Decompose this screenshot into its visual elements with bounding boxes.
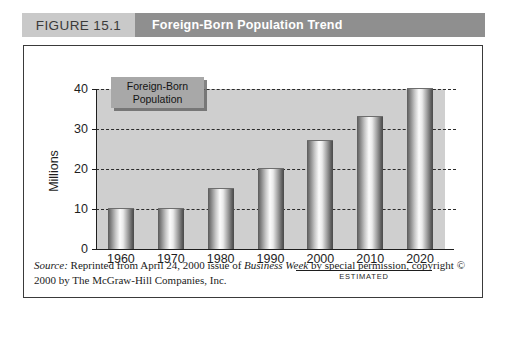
figure-title-label: Foreign-Born Population Trend bbox=[152, 18, 343, 32]
figure-frame: 010203040 Millions 196019701980199020002… bbox=[23, 45, 483, 298]
y-tick-label-0: 0 bbox=[62, 242, 88, 256]
y-tick-label-10: 10 bbox=[62, 202, 88, 216]
bar-1980 bbox=[208, 188, 234, 249]
bar-2020 bbox=[407, 88, 433, 249]
source-label: Source: bbox=[34, 259, 68, 271]
figure-number-label: FIGURE 15.1 bbox=[36, 18, 121, 33]
y-tick-mark-0 bbox=[92, 249, 97, 250]
source-publication: Business Week bbox=[244, 259, 308, 271]
y-tick-mark-40 bbox=[92, 89, 97, 90]
bar-2000 bbox=[307, 140, 333, 249]
y-tick-mark-30 bbox=[92, 129, 97, 130]
legend-line-2: Population bbox=[133, 93, 183, 106]
y-axis-title: Millions bbox=[47, 131, 61, 211]
figure-number-box: FIGURE 15.1 bbox=[22, 13, 135, 37]
bar-1970 bbox=[158, 208, 184, 249]
figure-header: FIGURE 15.1 Foreign-Born Population Tren… bbox=[22, 13, 485, 37]
y-tick-mark-20 bbox=[92, 169, 97, 170]
y-tick-label-30: 30 bbox=[62, 122, 88, 136]
bar-series bbox=[96, 89, 445, 249]
source-note: Source: Reprinted from April 24, 2000 is… bbox=[34, 258, 474, 287]
x-axis-line bbox=[96, 249, 454, 250]
bar-2010 bbox=[357, 116, 383, 249]
legend-callout: Foreign-Born Population bbox=[111, 77, 204, 108]
bar-1990 bbox=[258, 168, 284, 249]
y-axis-tick-labels: 010203040 bbox=[62, 89, 88, 249]
y-tick-label-40: 40 bbox=[62, 82, 88, 96]
bar-1960 bbox=[108, 208, 134, 249]
figure-title-box: Foreign-Born Population Trend bbox=[135, 13, 485, 37]
y-tick-label-20: 20 bbox=[62, 162, 88, 176]
legend-line-1: Foreign-Born bbox=[127, 80, 188, 93]
y-tick-mark-10 bbox=[92, 209, 97, 210]
source-text-1: Reprinted from April 24, 2000 issue of bbox=[68, 259, 244, 271]
